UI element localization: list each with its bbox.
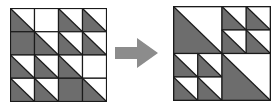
right-grid bbox=[173, 6, 271, 101]
right-quilt-grid bbox=[173, 6, 271, 101]
transform-arrow bbox=[113, 36, 161, 70]
arrow-right-icon bbox=[113, 36, 161, 70]
left-grid bbox=[10, 8, 107, 102]
left-quilt-grid bbox=[10, 8, 107, 102]
